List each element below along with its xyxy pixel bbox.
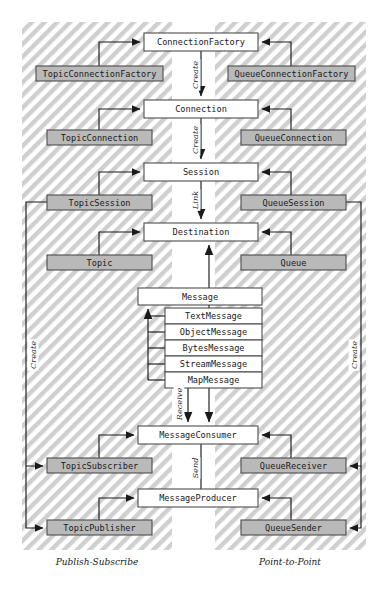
jms-class-diagram: ConnectionFactoryConnectionSessionDestin… (0, 0, 388, 596)
class-box-label-stream-message: StreamMessage (180, 359, 247, 369)
class-box-label-queue: Queue (281, 258, 307, 268)
class-box-queue[interactable]: Queue (241, 255, 346, 270)
class-box-label-queue-connection-factory: QueueConnectionFactory (235, 69, 349, 79)
diagram-canvas: ConnectionFactoryConnectionSessionDestin… (0, 0, 388, 596)
class-box-label-queue-session: QueueSession (262, 198, 324, 208)
zone-label-point-to-point: Point-to-Point (258, 557, 321, 567)
class-box-object-message[interactable]: ObjectMessage (165, 324, 262, 340)
edge-label-create-left: Create (28, 339, 39, 370)
class-box-label-topic-session: TopicSession (68, 198, 130, 208)
edge-label-create-right: Create (349, 339, 360, 370)
class-box-label-object-message: ObjectMessage (180, 327, 247, 337)
class-box-queue-connection-factory[interactable]: QueueConnectionFactory (228, 66, 355, 81)
edge-label-text-receive-msg: Receive (174, 388, 184, 422)
class-box-topic-connection[interactable]: TopicConnection (47, 130, 152, 145)
class-box-label-bytes-message: BytesMessage (182, 343, 244, 353)
edge-label-receive-msg: Receive (174, 386, 185, 422)
edge-label-text-create-right: Create (349, 341, 359, 369)
class-box-label-topic-connection: TopicConnection (61, 133, 139, 143)
zone-labels: Publish-SubscribePoint-to-Point (55, 557, 322, 567)
class-box-topic-session[interactable]: TopicSession (47, 195, 152, 210)
class-box-label-session: Session (183, 167, 219, 177)
class-box-message-producer[interactable]: MessageProducer (138, 489, 258, 507)
class-box-destination[interactable]: Destination (144, 223, 258, 241)
edge-label-text-link-ses-dest: Link (190, 191, 200, 210)
class-box-label-connection-factory: ConnectionFactory (157, 37, 245, 47)
class-box-label-queue-receiver: QueueReceiver (260, 461, 327, 471)
class-box-label-destination: Destination (173, 227, 230, 237)
class-box-topic-connection-factory[interactable]: TopicConnectionFactory (36, 66, 163, 81)
class-box-label-message: Message (182, 292, 218, 302)
class-box-label-map-message: MapMessage (188, 375, 240, 385)
class-box-bytes-message[interactable]: BytesMessage (165, 340, 262, 356)
class-box-message-consumer[interactable]: MessageConsumer (138, 426, 258, 444)
class-box-label-topic-connection-factory: TopicConnectionFactory (43, 69, 157, 79)
edge-label-create-cf-conn: Create (190, 59, 201, 90)
class-box-queue-session[interactable]: QueueSession (241, 195, 346, 210)
class-box-message[interactable]: Message (138, 288, 262, 305)
edge-label-link-ses-dest: Link (190, 189, 201, 211)
edge-label-text-create-conn-ses: Create (190, 126, 200, 154)
class-box-text-message[interactable]: TextMessage (165, 308, 262, 324)
class-box-queue-connection[interactable]: QueueConnection (241, 130, 346, 145)
edge-label-text-create-left: Create (28, 341, 38, 369)
class-box-queue-receiver[interactable]: QueueReceiver (241, 458, 346, 473)
class-box-label-message-consumer: MessageConsumer (159, 430, 237, 440)
class-box-queue-sender[interactable]: QueueSender (241, 520, 346, 535)
edge-label-text-create-cf-conn: Create (190, 61, 200, 89)
edge-label-text-send-msg: Send (190, 458, 200, 479)
class-box-label-queue-connection: QueueConnection (255, 133, 333, 143)
class-box-topic[interactable]: Topic (47, 255, 152, 270)
class-box-map-message[interactable]: MapMessage (165, 372, 262, 388)
zone-label-publish-subscribe: Publish-Subscribe (55, 557, 138, 567)
class-box-label-message-producer: MessageProducer (159, 493, 237, 503)
class-box-label-topic-publisher: TopicPublisher (63, 523, 135, 533)
class-box-label-topic-subscriber: TopicSubscriber (61, 461, 139, 471)
edge-label-send-msg: Send (190, 457, 201, 479)
class-box-topic-publisher[interactable]: TopicPublisher (47, 520, 152, 535)
class-box-stream-message[interactable]: StreamMessage (165, 356, 262, 372)
class-box-label-text-message: TextMessage (185, 311, 242, 321)
class-box-connection[interactable]: Connection (144, 100, 258, 118)
class-box-label-topic: Topic (87, 258, 113, 268)
class-box-topic-subscriber[interactable]: TopicSubscriber (47, 458, 152, 473)
class-box-label-connection: Connection (175, 104, 227, 114)
class-box-session[interactable]: Session (144, 163, 258, 181)
class-box-label-queue-sender: QueueSender (265, 523, 322, 533)
class-box-connection-factory[interactable]: ConnectionFactory (144, 33, 258, 51)
edge-label-create-conn-ses: Create (190, 124, 201, 155)
